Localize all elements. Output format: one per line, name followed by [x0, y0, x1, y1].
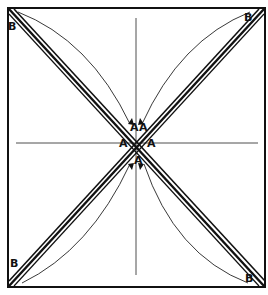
diagram-canvas: B B B B A A A A A — [0, 0, 268, 295]
label-b-top-right: B — [244, 11, 252, 24]
arc-top-left — [18, 12, 130, 124]
label-a-top-right: A — [139, 121, 148, 134]
label-a-right: A — [147, 137, 156, 150]
label-b-bottom-right: B — [245, 272, 253, 285]
label-a-top-left: A — [130, 121, 139, 134]
label-a-left: A — [119, 137, 128, 150]
arc-bottom-right — [144, 164, 248, 283]
arc-bottom-left — [22, 164, 130, 283]
label-b-bottom-left: B — [10, 257, 18, 270]
arc-top-right — [142, 12, 250, 124]
label-b-top-left: B — [8, 20, 16, 33]
label-a-bottom-left: A — [134, 154, 143, 167]
